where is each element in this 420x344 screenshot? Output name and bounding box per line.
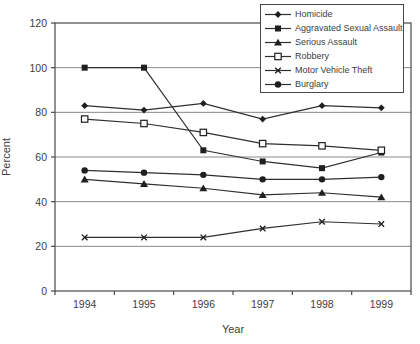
series-line <box>85 103 382 119</box>
x-tick-label: 1998 <box>302 298 342 310</box>
legend-item: Aggravated Sexual Assault <box>264 21 403 35</box>
legend: HomicideAggravated Sexual AssaultSerious… <box>260 4 404 93</box>
y-axis-title: Percent <box>0 122 16 192</box>
legend-item: Homicide <box>264 7 403 21</box>
y-tick-label: 60 <box>17 151 47 163</box>
legend-label: Aggravated Sexual Assault <box>295 23 403 33</box>
legend-label: Robbery <box>295 51 329 61</box>
legend-label: Burglary <box>295 79 329 89</box>
square-open-legend-marker-icon <box>264 51 292 62</box>
x-tick-label: 1999 <box>361 298 401 310</box>
x-tick-label: 1994 <box>65 298 105 310</box>
x-tick-label: 1995 <box>124 298 164 310</box>
legend-item: Burglary <box>264 77 403 91</box>
series-line <box>85 119 382 150</box>
series-line <box>85 222 382 238</box>
y-tick-label: 120 <box>17 17 47 29</box>
x-tick-label: 1996 <box>183 298 223 310</box>
y-tick-label: 20 <box>17 240 47 252</box>
legend-label: Homicide <box>295 9 333 19</box>
y-tick-label: 40 <box>17 196 47 208</box>
triangle-legend-marker-icon <box>264 37 292 48</box>
y-tick-label: 80 <box>17 106 47 118</box>
series-line <box>85 170 382 179</box>
y-tick-label: 100 <box>17 62 47 74</box>
x-axis-title: Year <box>203 323 263 335</box>
legend-item: Serious Assault <box>264 35 403 49</box>
x-legend-marker-icon <box>264 65 292 76</box>
legend-item: Motor Vehicle Theft <box>264 63 403 77</box>
series-line <box>85 179 382 197</box>
x-tick-label: 1997 <box>243 298 283 310</box>
square-legend-marker-icon <box>264 23 292 34</box>
diamond-legend-marker-icon <box>264 9 292 20</box>
crime-trends-line-chart: Percent Year 020406080100120 19941995199… <box>0 0 420 344</box>
legend-label: Serious Assault <box>295 37 357 47</box>
legend-label: Motor Vehicle Theft <box>295 65 372 75</box>
y-tick-label: 0 <box>17 285 47 297</box>
legend-item: Robbery <box>264 49 403 63</box>
circle-legend-marker-icon <box>264 79 292 90</box>
